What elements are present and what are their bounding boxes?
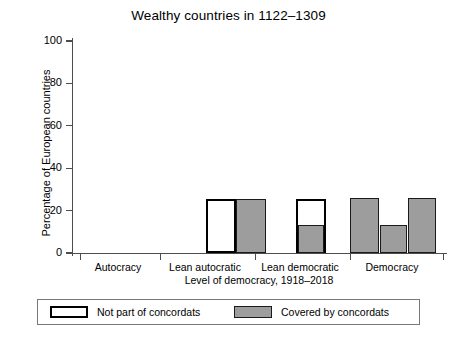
y-tick-label-80: 80 bbox=[2, 76, 62, 88]
legend-label-not-part: Not part of concordats bbox=[97, 306, 200, 318]
y-tick-label-0: 0 bbox=[2, 246, 62, 258]
bar bbox=[298, 225, 324, 253]
y-tick-40 bbox=[66, 168, 73, 169]
legend-entry-covered: Covered by concordats bbox=[234, 300, 389, 324]
y-tick-label-100: 100 bbox=[2, 34, 62, 46]
y-tick-0 bbox=[66, 252, 73, 253]
chart-legend: Not part of concordats Covered by concor… bbox=[37, 299, 420, 325]
y-tick-label-40: 40 bbox=[2, 161, 62, 173]
chart-title: Wealthy countries in 1122–1309 bbox=[0, 8, 457, 23]
legend-label-covered: Covered by concordats bbox=[281, 306, 389, 318]
x-tick-3 bbox=[350, 254, 351, 260]
y-tick-100 bbox=[66, 40, 73, 41]
x-category-label-lean-autocratic: Lean autocratic bbox=[169, 261, 241, 273]
y-tick-60 bbox=[66, 125, 73, 126]
x-tick-4 bbox=[443, 254, 444, 260]
y-tick-label-20: 20 bbox=[2, 204, 62, 216]
x-tick-2 bbox=[255, 254, 256, 260]
x-category-label-lean-democratic: Lean democratic bbox=[261, 261, 339, 273]
bar bbox=[408, 198, 436, 253]
legend-entry-not-part: Not part of concordats bbox=[50, 300, 200, 324]
legend-swatch-filled bbox=[234, 306, 272, 318]
y-axis-title: Percentage of European countries bbox=[40, 38, 52, 268]
legend-swatch-hollow bbox=[50, 306, 88, 318]
bar bbox=[380, 225, 407, 253]
y-axis-line bbox=[72, 38, 73, 256]
bar bbox=[236, 199, 266, 253]
x-axis-line bbox=[72, 253, 447, 254]
chart-page: Wealthy countries in 1122–1309 020406080… bbox=[0, 0, 457, 339]
y-tick-20 bbox=[66, 210, 73, 211]
bar bbox=[350, 198, 379, 253]
x-tick-0 bbox=[80, 254, 81, 260]
y-tick-80 bbox=[66, 83, 73, 84]
bar bbox=[206, 199, 236, 253]
y-tick-label-60: 60 bbox=[2, 119, 62, 131]
x-category-label-autocracy: Autocracy bbox=[95, 261, 142, 273]
x-category-label-democracy: Democracy bbox=[365, 261, 418, 273]
x-tick-1 bbox=[160, 254, 161, 260]
x-axis-title: Level of democracy, 1918–2018 bbox=[73, 274, 445, 286]
